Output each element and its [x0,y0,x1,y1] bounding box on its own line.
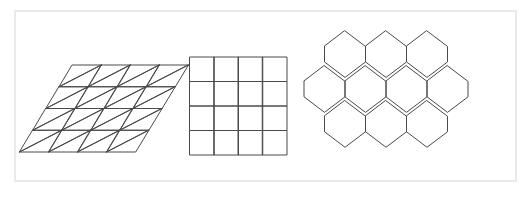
square-tile [263,82,287,107]
square-tile [214,82,238,107]
square-tile [190,57,214,82]
square-tile [190,82,214,107]
tilings-canvas [0,0,531,198]
square-tile [239,106,263,131]
square-tile [190,131,214,156]
tilings-figure [0,0,531,198]
square-tile [263,106,287,131]
square-tile [239,82,263,107]
square-tile [263,57,287,82]
triangular-tiling [20,65,189,152]
square-tiling [190,57,287,155]
square-tile [239,131,263,156]
hexagonal-tiling [304,31,468,147]
square-tile [214,131,238,156]
square-tile [214,106,238,131]
square-tile [239,57,263,82]
square-tile [214,57,238,82]
square-tile [263,131,287,156]
square-tile [190,106,214,131]
